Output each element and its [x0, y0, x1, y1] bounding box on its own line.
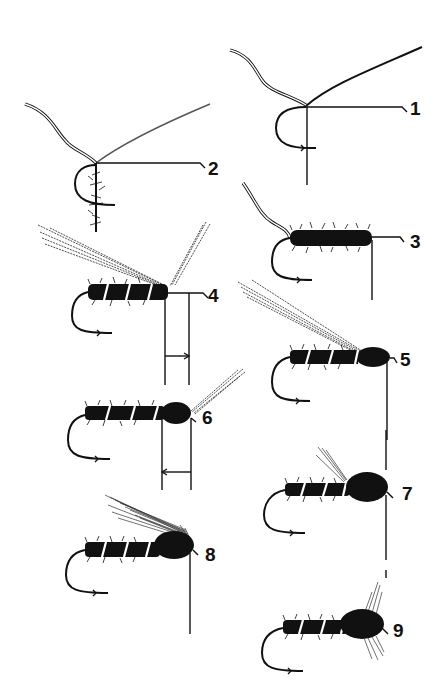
step-2-label: 2	[208, 158, 219, 179]
step-9-label: 9	[393, 620, 404, 641]
step-1-illustration	[230, 47, 422, 185]
step-5-illustration	[238, 280, 397, 440]
step-3-illustration	[243, 183, 404, 300]
step-5-label: 5	[400, 349, 411, 370]
step-1-label: 1	[410, 98, 421, 119]
step-4-illustration	[38, 222, 210, 385]
step-4-label: 4	[208, 285, 219, 306]
step-6-illustration	[68, 369, 245, 490]
step-8-illustration	[66, 495, 198, 634]
step-2-illustration	[25, 104, 210, 232]
step-6-label: 6	[202, 407, 213, 428]
step-7-label: 7	[402, 483, 413, 504]
step-3-label: 3	[410, 231, 421, 252]
step-8-label: 8	[205, 544, 216, 565]
step-7-illustration	[264, 430, 393, 560]
step-9-illustration	[262, 570, 388, 674]
fly-tying-diagram: 1 2 3 4	[0, 0, 442, 700]
